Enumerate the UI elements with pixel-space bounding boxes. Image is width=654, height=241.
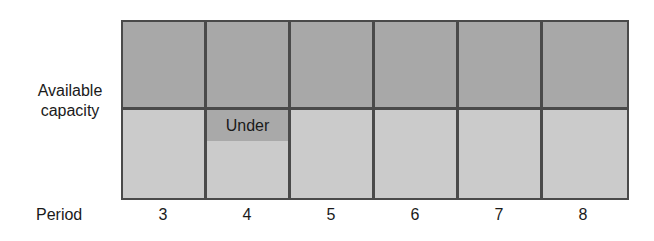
cell-bottom-period-4: Under [207,110,291,198]
cell-top-period-5 [291,22,375,110]
cell-top-period-3 [123,22,207,110]
cell-top-period-8 [543,22,627,110]
tick-period: 4 [205,206,289,224]
period-axis: Period 3 4 5 6 7 8 [0,206,654,230]
row-label-line1: Available [20,81,120,101]
row-label-line2: capacity [20,101,120,121]
tick-period: 8 [541,206,625,224]
cell-bottom-period-6 [375,110,459,198]
cell-top-period-6 [375,22,459,110]
cell-top-period-4 [207,22,291,110]
cell-top-period-7 [459,22,543,110]
cell-bottom-period-3 [123,110,207,198]
cell-bottom-period-7 [459,110,543,198]
capacity-grid: Under [121,20,629,200]
axis-title: Period [36,206,82,224]
under-label: Under [207,110,288,141]
tick-period: 7 [457,206,541,224]
cell-bottom-period-5 [291,110,375,198]
tick-period: 3 [121,206,205,224]
available-capacity-label: Available capacity [20,81,120,121]
tick-period: 5 [289,206,373,224]
tick-period: 6 [373,206,457,224]
cell-bottom-period-8 [543,110,627,198]
